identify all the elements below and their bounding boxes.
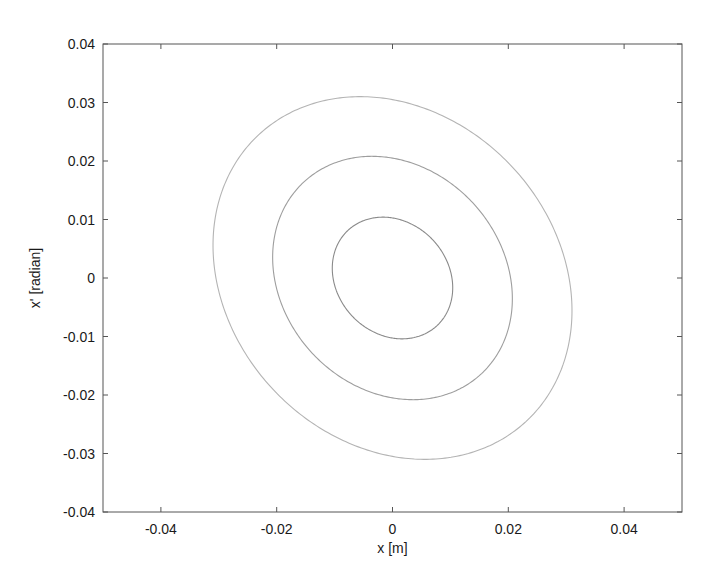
figure-background [0, 0, 721, 583]
y-tick-label: -0.04 [63, 504, 95, 520]
y-tick-label: -0.02 [63, 387, 95, 403]
y-tick-label: 0.03 [68, 95, 95, 111]
x-tick-label: 0.02 [495, 521, 522, 537]
y-axis-label: x' [radian] [27, 248, 43, 308]
x-tick-label: -0.02 [261, 521, 293, 537]
y-tick-label: -0.01 [63, 329, 95, 345]
x-axis-label: x [m] [377, 540, 407, 556]
y-tick-label: -0.03 [63, 446, 95, 462]
x-tick-label: 0.04 [610, 521, 637, 537]
y-tick-label: 0 [87, 270, 95, 286]
y-tick-label: 0.01 [68, 212, 95, 228]
x-tick-label: 0 [389, 521, 397, 537]
x-tick-label: -0.04 [145, 521, 177, 537]
y-tick-label: 0.02 [68, 153, 95, 169]
phase-space-figure: -0.04-0.0200.020.04 -0.04-0.03-0.02-0.01… [0, 0, 721, 583]
y-tick-label: 0.04 [68, 36, 95, 52]
